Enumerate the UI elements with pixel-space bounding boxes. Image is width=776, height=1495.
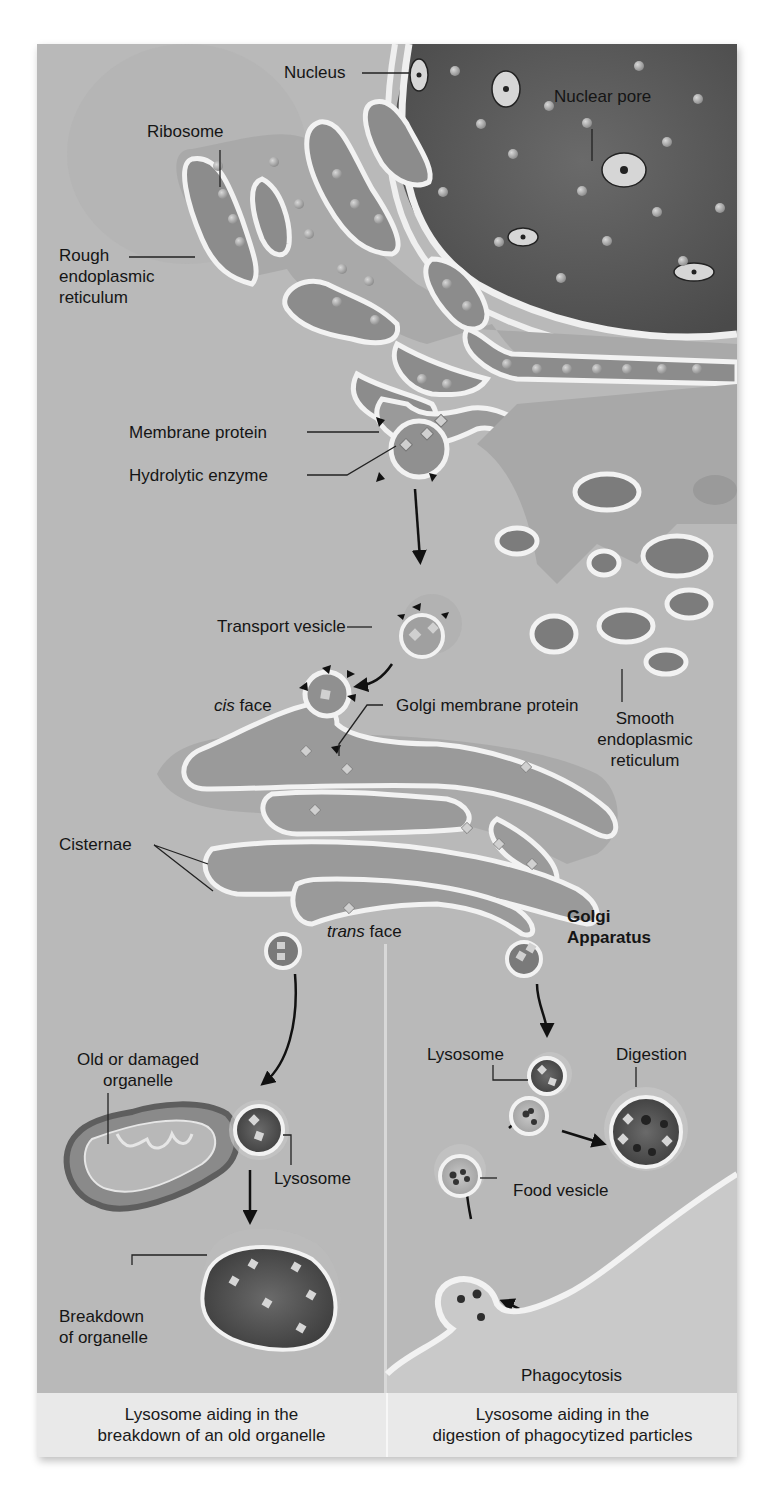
label-phagocytosis: Phagocytosis	[521, 1365, 622, 1386]
label-cis-face: cis face	[214, 695, 272, 716]
label-food-vesicle: Food vesicle	[513, 1180, 608, 1201]
label-ribosome: Ribosome	[147, 121, 224, 142]
caption-strip: Lysosome aiding in the breakdown of an o…	[37, 1393, 737, 1457]
label-trans-face: trans face	[327, 921, 402, 942]
lysosome-left-vesicle	[229, 1100, 289, 1160]
label-nucleus: Nucleus	[284, 62, 345, 83]
digestion-vesicle	[604, 1087, 688, 1171]
label-cisternae: Cisternae	[59, 834, 132, 855]
label-lysosome-left: Lysosome	[274, 1168, 351, 1189]
food-vesicle	[434, 1144, 486, 1196]
breakdown-vesicle	[201, 1228, 340, 1351]
label-golgi-membrane-protein: Golgi membrane protein	[396, 695, 578, 716]
caption-right: Lysosome aiding in the digestion of phag…	[386, 1393, 737, 1457]
small-food-vesicle	[511, 1098, 547, 1134]
label-hydrolytic-enzyme: Hydrolytic enzyme	[129, 465, 268, 486]
label-nuclear-pore: Nuclear pore	[554, 86, 651, 107]
label-digestion: Digestion	[616, 1044, 687, 1065]
label-lysosome-right: Lysosome	[427, 1044, 504, 1065]
label-membrane-protein: Membrane protein	[129, 422, 267, 443]
lysosome-right-vesicle	[528, 1052, 572, 1096]
lysosome-formation-figure: Nucleus Nuclear pore Ribosome Rough endo…	[37, 44, 737, 1457]
caption-left: Lysosome aiding in the breakdown of an o…	[37, 1393, 386, 1457]
label-transport-vesicle: Transport vesicle	[217, 616, 346, 637]
